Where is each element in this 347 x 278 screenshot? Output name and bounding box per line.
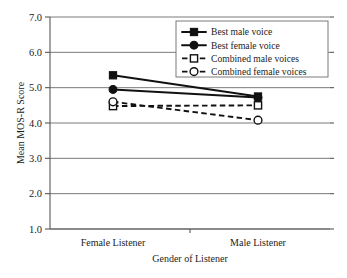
data-point-marker: [254, 116, 262, 124]
y-axis-title: Mean MOS-R Score: [15, 81, 26, 164]
legend-marker-sample: [190, 68, 198, 76]
data-point-marker: [109, 72, 116, 79]
x-axis-title: Gender of Listener: [152, 253, 228, 264]
series-layer: [109, 72, 262, 124]
legend-marker-sample: [190, 41, 198, 49]
data-point-marker: [254, 102, 261, 109]
y-tick-label: 1.0: [29, 224, 42, 235]
legend-label: Best female voice: [211, 40, 280, 51]
category-label: Female Listener: [81, 237, 146, 248]
legend-item: Best male voice: [182, 26, 272, 37]
y-tick-label: 3.0: [29, 153, 42, 164]
category-label: Male Listener: [230, 237, 286, 248]
data-point-marker: [254, 94, 262, 102]
category-labels: Female ListenerMale Listener: [81, 237, 287, 248]
series-group: [109, 98, 262, 124]
y-tick-labels: 7.06.05.04.03.02.01.0: [29, 12, 42, 235]
legend-label: Combined male voices: [211, 53, 299, 64]
y-tick-label: 7.0: [29, 12, 42, 23]
series-line: [113, 102, 258, 120]
y-tick-label: 2.0: [29, 188, 42, 199]
y-tick-label: 4.0: [29, 118, 42, 129]
chart-legend: Best male voiceBest female voiceCombined…: [176, 21, 328, 77]
chart-canvas: 7.06.05.04.03.02.01.0 Mean MOS-R Score F…: [0, 0, 347, 278]
legend-marker-sample: [190, 28, 197, 35]
y-tick-label: 5.0: [29, 82, 42, 93]
series-group: [109, 102, 261, 110]
line-chart: 7.06.05.04.03.02.01.0 Mean MOS-R Score F…: [0, 0, 347, 278]
legend-label: Best male voice: [211, 26, 272, 37]
y-tick-label: 6.0: [29, 47, 42, 58]
legend-label: Combined female voices: [211, 66, 307, 77]
data-point-marker: [109, 98, 117, 106]
legend-marker-sample: [190, 55, 197, 62]
data-point-marker: [109, 86, 117, 94]
